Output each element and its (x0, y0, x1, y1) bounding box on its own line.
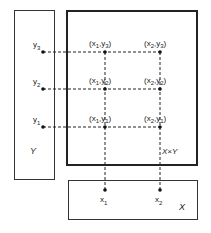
label-x1: x1 (100, 195, 108, 206)
set-x-box (69, 181, 198, 220)
point-x1 (103, 188, 107, 192)
point-x2-y1 (158, 125, 162, 129)
point-y1 (41, 125, 45, 129)
label-y3: y3 (33, 40, 41, 51)
label-pair-x1-y1: (x1,y1) (89, 114, 112, 124)
label-pair-x2-y1: (x2,y1) (144, 114, 167, 124)
label-pair-x1-y2: (x1,y2) (89, 76, 112, 86)
cartesian-product-diagram: y3 y2 y1 (x1,y3) (x2,y3) (x1,y2) (x2,y2)… (0, 0, 211, 233)
product-set-box (67, 11, 197, 165)
point-x1-y1 (103, 125, 107, 129)
point-x1-y3 (103, 50, 107, 54)
label-pair-x2-y3: (x2,y3) (144, 39, 167, 49)
point-x2-y3 (158, 50, 162, 54)
point-x2 (158, 188, 162, 192)
set-label-xxy: X×Y (161, 147, 178, 156)
label-pair-x2-y2: (x2,y2) (144, 76, 167, 86)
point-x1-y2 (103, 87, 107, 91)
label-y2: y2 (33, 77, 41, 88)
set-label-y: Y (30, 146, 37, 156)
set-label-x: X (178, 202, 186, 212)
label-y1: y1 (33, 115, 41, 126)
label-x2: x2 (155, 195, 163, 206)
label-pair-x1-y3: (x1,y3) (89, 39, 112, 49)
point-y3 (41, 50, 45, 54)
point-x2-y2 (158, 87, 162, 91)
point-y2 (41, 87, 45, 91)
